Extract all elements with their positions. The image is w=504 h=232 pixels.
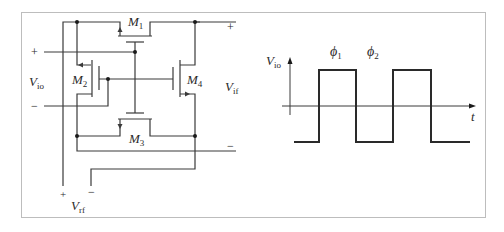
x-axis-arrow xyxy=(469,104,476,109)
vrf-plus: + xyxy=(60,188,66,200)
vrf-minus: − xyxy=(88,185,95,199)
label-phi2: ϕ2 xyxy=(367,44,379,61)
y-axis-arrow xyxy=(288,57,293,64)
label-vif: Vif xyxy=(225,79,238,96)
vif-minus: − xyxy=(227,139,234,153)
label-phi1: ϕ1 xyxy=(330,44,342,61)
wire-top-left xyxy=(63,22,120,186)
label-x-axis: t xyxy=(471,109,475,124)
label-vio: Vio xyxy=(29,74,44,91)
vio-minus: − xyxy=(31,99,38,113)
circuit-schematic xyxy=(44,22,236,186)
label-m2: M2 xyxy=(71,72,87,89)
label-m3: M3 xyxy=(128,131,145,148)
label-m4: M4 xyxy=(186,72,203,89)
label-m1: M1 xyxy=(127,14,143,31)
wire-m2-drain xyxy=(77,22,91,65)
vif-plus: + xyxy=(227,20,234,34)
label-vrf: Vrf xyxy=(71,198,85,215)
label-y-axis: Vio xyxy=(266,53,281,70)
vio-plus: + xyxy=(31,45,38,59)
waveform-plot xyxy=(282,57,476,142)
chopper-switch-figure: M1 M2 M3 M4 + − Vio + − Vif + − Vrf Vio … xyxy=(0,0,504,232)
